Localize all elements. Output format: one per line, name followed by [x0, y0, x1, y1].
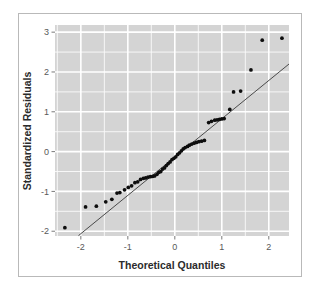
- data-point: [94, 204, 98, 208]
- figure-root: -2-1012 3210-1-2 Theoretical Quantiles S…: [0, 0, 319, 294]
- data-point: [110, 197, 114, 201]
- y-tick-label: -1: [41, 187, 49, 197]
- x-axis-title: Theoretical Quantiles: [119, 259, 226, 271]
- data-point: [118, 191, 122, 195]
- data-point: [249, 68, 253, 72]
- data-point: [126, 186, 130, 190]
- panel-group: [55, 25, 289, 236]
- x-tick-label: 1: [219, 242, 224, 252]
- x-tick-label: 2: [266, 242, 271, 252]
- x-tick-label: -1: [124, 242, 132, 252]
- qq-plot-svg: -2-1012 3210-1-2 Theoretical Quantiles S…: [0, 0, 319, 294]
- data-point: [84, 205, 88, 209]
- y-axis-title: Standardized Residuals: [21, 72, 33, 191]
- y-tick-label: -2: [41, 226, 49, 236]
- x-axis-ticks: [81, 236, 269, 240]
- data-point: [228, 108, 232, 112]
- data-point: [203, 139, 207, 143]
- qq-plot-area: -2-1012 3210-1-2 Theoretical Quantiles S…: [0, 0, 319, 294]
- data-point: [210, 119, 214, 123]
- data-point: [232, 90, 236, 94]
- data-point: [104, 200, 108, 204]
- x-tick-label: 0: [172, 242, 177, 252]
- data-point: [123, 188, 127, 192]
- y-axis-tick-labels: 3210-1-2: [41, 27, 49, 236]
- data-point: [222, 117, 226, 121]
- x-axis-tick-labels: -2-1012: [77, 242, 271, 252]
- y-axis-ticks: [52, 32, 56, 231]
- y-tick-label: 1: [44, 107, 49, 117]
- data-point: [239, 89, 243, 93]
- y-tick-label: 2: [44, 67, 49, 77]
- data-point: [280, 36, 284, 40]
- y-tick-label: 0: [44, 147, 49, 157]
- data-point: [63, 226, 67, 230]
- data-point: [130, 184, 134, 188]
- plot-panel-background: [55, 25, 289, 236]
- x-tick-label: -2: [77, 242, 85, 252]
- y-tick-label: 3: [44, 27, 49, 37]
- data-point: [260, 38, 264, 42]
